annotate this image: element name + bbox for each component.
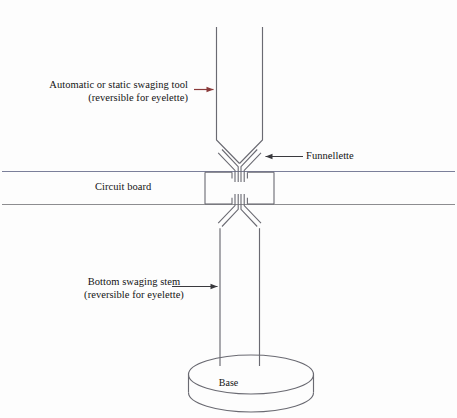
circuit-board-lines [2, 172, 455, 205]
arrow-right-icon-tool [194, 87, 214, 92]
label-swaging-stem-line1: Bottom swaging stem [88, 276, 181, 287]
label-circuit-board: Circuit board [95, 181, 151, 194]
arrow-left-icon-funnellette [266, 154, 304, 159]
label-swaging-tool-line1: Automatic or static swaging tool [49, 79, 188, 90]
label-swaging-stem-line2: (reversible for eyelette) [72, 289, 196, 302]
label-swaging-tool-line2: (reversible for eyelette) [26, 92, 188, 105]
diagram-page: Automatic or static swaging tool (revers… [0, 0, 457, 418]
base-bottom-arc [189, 393, 314, 413]
diagram-canvas [0, 0, 457, 418]
label-swaging-stem: Bottom swaging stem (reversible for eyel… [72, 276, 196, 301]
label-funnellette: Funnellette [306, 150, 354, 163]
swaging-stem-shape [220, 228, 260, 366]
swaging-tool-shape [217, 27, 263, 164]
label-base: Base [0, 377, 457, 390]
label-swaging-tool: Automatic or static swaging tool (revers… [26, 79, 188, 104]
board-pads [205, 172, 274, 204]
funnellette-shape [218, 150, 261, 183]
swaging-stem-flare [218, 194, 261, 227]
